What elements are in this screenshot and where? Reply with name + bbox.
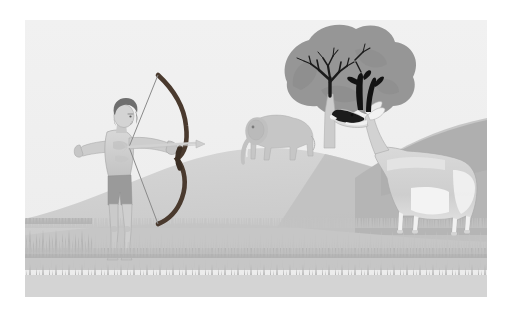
screenshot-canvas [0,0,510,319]
illustration-image [25,20,487,297]
bow-grip [178,148,180,168]
scene-svg [25,20,487,297]
archer-torso [105,130,134,178]
pronghorn-eye [351,114,354,117]
pronghorn-belly [411,187,449,214]
archer-eye [129,115,131,117]
elephant-eye [252,126,255,129]
